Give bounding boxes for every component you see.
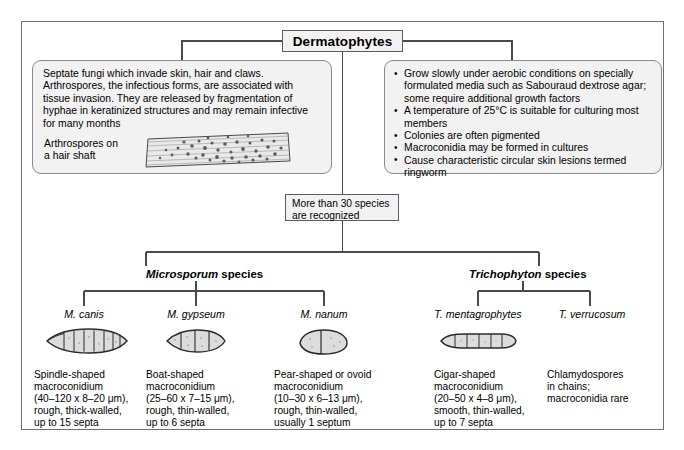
species-name-m-nanum: M. nanum xyxy=(274,308,374,320)
bullet-item: Cause characteristic circular skin lesio… xyxy=(393,155,653,180)
species-name-t-verrucosum: T. verrucosum xyxy=(540,308,644,320)
bullet-item: Macroconidia may be formed in cultures xyxy=(393,142,653,154)
species-description-m-gypseum: Boat-shaped macroconidium (25–60 x 7–15 … xyxy=(146,369,264,429)
species-count-box: More than 30 species are recognized xyxy=(285,194,399,221)
species-description-t-mentagrophytes: Cigar-shaped macroconidium (20–50 x 4–8 … xyxy=(434,369,554,429)
genus-suffix: species xyxy=(542,268,587,280)
species-description-m-nanum: Pear-shaped or ovoid macroconidium (10–3… xyxy=(274,369,404,429)
species-description-m-canis: Spindle-shaped macroconidium (40–120 x 8… xyxy=(34,369,152,429)
species-description-t-verrucosum: Chlamydospores in chains; macroconidia r… xyxy=(547,369,657,405)
spindle-macroconidium-icon xyxy=(44,328,130,354)
genus-name: Microsporum xyxy=(146,268,218,280)
arthrospore-caption: Arthrospores on a hair shaft xyxy=(44,138,142,163)
genus-label-trichophyton: Trichophyton species xyxy=(469,268,587,280)
species-name-t-mentagrophytes: T. mentagrophytes xyxy=(420,308,536,320)
pear-macroconidium-icon xyxy=(296,328,350,356)
left-panel-text: Septate fungi which invade skin, hair an… xyxy=(43,68,322,130)
genus-suffix: species xyxy=(218,268,263,280)
bullet-item: A temperature of 25°C is suitable for cu… xyxy=(393,105,653,130)
genus-label-microsporum: Microsporum species xyxy=(146,268,263,280)
hair-shaft-micrograph xyxy=(142,130,294,170)
species-count-text: More than 30 species are recognized xyxy=(292,198,393,221)
species-name-m-gypseum: M. gypseum xyxy=(146,308,246,320)
cigar-macroconidium-icon xyxy=(438,332,518,350)
right-panel-bullets: Grow slowly under aerobic conditions on … xyxy=(393,68,653,180)
diagram-title-box: Dermatophytes xyxy=(282,30,403,52)
genus-name: Trichophyton xyxy=(469,268,542,280)
diagram-root: Dermatophytes Septate fungi which invade… xyxy=(0,0,684,450)
right-description-panel: Grow slowly under aerobic conditions on … xyxy=(384,60,662,174)
page-title: Dermatophytes xyxy=(293,34,393,49)
boat-macroconidium-icon xyxy=(164,328,228,354)
species-name-m-canis: M. canis xyxy=(34,308,134,320)
arthrospore-figure: Arthrospores on a hair shaft xyxy=(44,129,322,171)
bullet-item: Colonies are often pigmented xyxy=(393,130,653,142)
bullet-item: Grow slowly under aerobic conditions on … xyxy=(393,68,653,105)
